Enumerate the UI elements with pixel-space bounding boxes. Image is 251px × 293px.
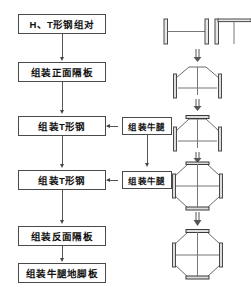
illustration-arrow-1: [194, 49, 202, 62]
h-beam-and-t-beam-profile-icon: [164, 19, 251, 44]
octagon-section-stage-1-icon: [173, 162, 223, 210]
trapezoid-section-stage-1-icon: [174, 67, 222, 98]
illustration-arrow-4: [194, 212, 202, 226]
octagon-section-stage-2-icon: [173, 230, 223, 280]
trapezoid-section-stage-2-icon: [174, 116, 222, 152]
illustration-arrow-2: [194, 99, 202, 111]
flowchart-diagram: H、T形钢组对 组装正面隔板 组装T形钢 组装T形钢 组装反面隔板 组装牛腿地脚…: [0, 0, 251, 293]
illustration-arrow-3: [194, 152, 202, 163]
technical-illustration-column: [0, 0, 251, 293]
